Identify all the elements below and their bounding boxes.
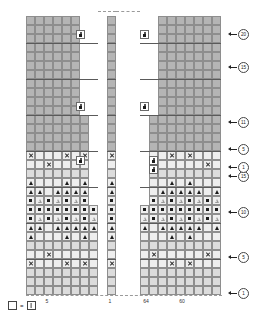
chart-cell <box>62 214 71 223</box>
chart-cell <box>158 61 167 70</box>
chart-cell <box>212 169 221 178</box>
glyph-dot <box>45 197 52 204</box>
open-triangle-icon <box>179 199 183 203</box>
open-triangle-icon <box>215 199 219 203</box>
chart-cell <box>203 268 212 277</box>
x-mark-icon <box>64 261 69 266</box>
chart-cell <box>176 70 185 79</box>
chart-cell <box>167 160 176 169</box>
chart-cell <box>158 187 167 196</box>
chart-cell <box>62 70 71 79</box>
filled-triangle-icon <box>170 226 174 230</box>
chart-cell <box>158 205 167 214</box>
chart-cell <box>44 241 53 250</box>
chart-cell <box>107 61 116 70</box>
chart-cell <box>176 214 185 223</box>
chart-cell <box>26 232 35 241</box>
chart-cell <box>185 43 194 52</box>
chart-cell <box>71 133 80 142</box>
chart-cell <box>53 61 62 70</box>
glyph-trio <box>72 215 79 222</box>
open-triangle-icon <box>161 199 165 203</box>
filled-triangle-icon <box>110 181 114 185</box>
chart-cell <box>107 43 116 52</box>
chart-cell <box>62 250 71 259</box>
chart-cell <box>62 286 71 295</box>
chart-cell <box>203 151 212 160</box>
chart-cell <box>71 169 80 178</box>
glyph-dot <box>168 206 175 213</box>
purl-dot-icon <box>215 208 217 210</box>
filled-triangle-icon <box>83 190 87 194</box>
chart-cell <box>212 250 221 259</box>
chart-cell <box>107 115 116 124</box>
glyph-fig <box>150 157 157 164</box>
glyph-tri <box>186 188 193 195</box>
chart-cell <box>176 43 185 52</box>
purl-dot-icon <box>83 199 85 201</box>
chart-cell <box>107 79 116 88</box>
chart-cell <box>44 232 53 241</box>
chart-cell <box>194 232 203 241</box>
glyph-dot <box>186 215 193 222</box>
chart-cell <box>89 286 98 295</box>
chart-cell <box>44 97 53 106</box>
purl-dot-icon <box>197 208 199 210</box>
open-triangle-icon <box>143 217 147 221</box>
filled-triangle-icon <box>74 226 78 230</box>
filled-triangle-icon <box>170 190 174 194</box>
chart-cell <box>107 178 116 187</box>
chart-cell <box>62 52 71 61</box>
chart-cell <box>62 223 71 232</box>
chart-cell <box>176 241 185 250</box>
chart-cell <box>194 34 203 43</box>
filled-triangle-icon <box>83 181 87 185</box>
chart-cell <box>158 43 167 52</box>
chart-cell <box>185 115 194 124</box>
chart-cell <box>89 232 98 241</box>
row-number: 1 <box>238 288 249 299</box>
chart-cell <box>212 106 221 115</box>
chart-cell <box>107 151 116 160</box>
chart-cell <box>44 115 53 124</box>
glyph-x <box>168 260 175 267</box>
chart-cell <box>185 205 194 214</box>
glyph-tri <box>72 224 79 231</box>
chart-cell <box>35 79 44 88</box>
glyph-dot <box>204 215 211 222</box>
chart-cell <box>176 223 185 232</box>
chart-cell <box>149 223 158 232</box>
glyph-dot <box>213 206 220 213</box>
chart-cell <box>71 232 80 241</box>
figure-marker-icon <box>143 104 147 110</box>
chart-cell <box>35 142 44 151</box>
chart-cell <box>80 187 89 196</box>
chart-cell <box>44 250 53 259</box>
chart-cell <box>71 205 80 214</box>
chart-cell <box>107 169 116 178</box>
glyph-tri <box>108 179 115 186</box>
chart-cell <box>71 187 80 196</box>
chart-cell <box>194 268 203 277</box>
chart-cell <box>80 196 89 205</box>
chart-cell <box>212 52 221 61</box>
glyph-x <box>168 152 175 159</box>
glyph-trio <box>177 215 184 222</box>
chart-cell <box>26 88 35 97</box>
purl-dot-icon <box>29 208 31 210</box>
chart-cell <box>176 268 185 277</box>
filled-triangle-icon <box>65 190 69 194</box>
chart-cell <box>62 133 71 142</box>
chart-cell <box>194 133 203 142</box>
chart-cell <box>212 16 221 25</box>
chart-cell <box>203 124 212 133</box>
chart-cell <box>44 16 53 25</box>
filled-triangle-icon <box>38 226 42 230</box>
filled-triangle-icon <box>188 235 192 239</box>
glyph-x <box>186 152 193 159</box>
chart-cell <box>203 277 212 286</box>
chart-cell <box>140 259 149 268</box>
glyph-dot <box>177 206 184 213</box>
chart-cell <box>176 259 185 268</box>
chart-cell <box>194 61 203 70</box>
